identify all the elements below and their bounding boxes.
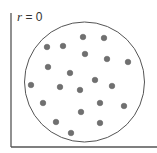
data-point	[28, 82, 34, 88]
data-points	[28, 34, 131, 136]
data-point	[60, 43, 66, 49]
data-point	[68, 130, 74, 136]
data-point	[121, 103, 127, 109]
data-point	[101, 35, 107, 41]
value-text: = 0	[22, 10, 42, 24]
data-point	[125, 59, 131, 65]
data-point	[53, 119, 59, 125]
data-point	[104, 56, 110, 62]
data-point	[44, 44, 50, 50]
correlation-label: r = 0	[17, 9, 42, 25]
data-point	[92, 77, 98, 83]
data-point	[82, 51, 88, 57]
data-point	[40, 100, 46, 106]
data-point	[77, 87, 83, 93]
data-point	[57, 84, 63, 90]
data-point	[97, 120, 103, 126]
boundary-circle	[25, 22, 145, 142]
data-point	[78, 109, 84, 115]
data-point	[97, 100, 103, 106]
data-point	[109, 83, 115, 89]
data-point	[67, 70, 73, 76]
data-point	[80, 34, 86, 40]
data-point	[45, 64, 51, 70]
